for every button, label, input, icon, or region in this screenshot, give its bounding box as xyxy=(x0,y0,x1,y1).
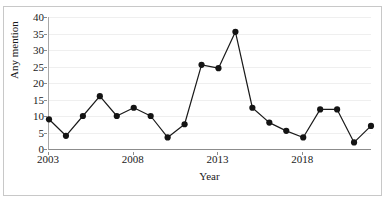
y-tick-mark xyxy=(44,116,47,117)
data-point-marker xyxy=(63,133,69,139)
x-tick-label: 2008 xyxy=(122,154,144,165)
x-tick-mark xyxy=(48,152,49,155)
chart-figure: 0510152025303540 Any mention 20032008201… xyxy=(0,0,387,201)
series-line xyxy=(49,32,371,143)
x-tick-mark xyxy=(302,152,303,155)
x-tick-label: 2018 xyxy=(291,154,313,165)
y-tick-label: 5 xyxy=(4,127,44,138)
data-point-marker xyxy=(165,134,171,140)
data-point-marker xyxy=(351,139,357,145)
data-point-marker xyxy=(368,123,374,129)
data-point-marker xyxy=(283,128,289,134)
data-point-marker xyxy=(80,113,86,119)
y-tick-mark xyxy=(44,100,47,101)
data-point-marker xyxy=(232,29,238,35)
data-point-marker xyxy=(114,113,120,119)
data-point-marker xyxy=(198,62,204,68)
data-point-marker xyxy=(97,93,103,99)
plot-area xyxy=(48,17,371,150)
y-tick-mark xyxy=(44,83,47,84)
y-tick-label: 10 xyxy=(4,111,44,122)
x-axis-ticks: 2003200820132018 xyxy=(48,152,371,168)
y-tick-mark xyxy=(44,34,47,35)
y-tick-mark xyxy=(44,133,47,134)
y-tick-mark xyxy=(44,17,47,18)
series-layer xyxy=(49,17,371,149)
data-point-marker xyxy=(148,113,154,119)
data-point-marker xyxy=(317,106,323,112)
data-point-marker xyxy=(215,65,221,71)
x-tick-label: 2013 xyxy=(206,154,228,165)
data-point-marker xyxy=(334,106,340,112)
x-tick-mark xyxy=(217,152,218,155)
y-tick-mark xyxy=(44,67,47,68)
x-tick-label: 2003 xyxy=(37,154,59,165)
data-point-marker xyxy=(46,116,52,122)
y-axis-label: Any mention xyxy=(8,0,20,110)
y-axis-ticks: 0510152025303540 xyxy=(0,17,44,150)
data-point-marker xyxy=(181,121,187,127)
data-point-marker xyxy=(249,105,255,111)
data-point-marker xyxy=(266,120,272,126)
data-point-marker xyxy=(300,134,306,140)
y-tick-mark xyxy=(44,50,47,51)
data-point-marker xyxy=(131,105,137,111)
x-axis-label: Year xyxy=(48,170,371,182)
y-tick-mark xyxy=(44,149,47,150)
x-tick-mark xyxy=(133,152,134,155)
